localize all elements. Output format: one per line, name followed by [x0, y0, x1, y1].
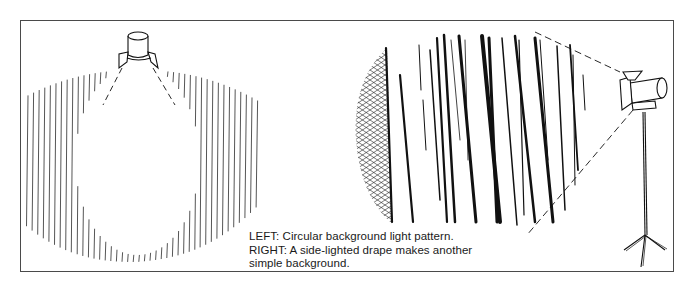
caption-line-left: LEFT: Circular background light pattern. [249, 230, 472, 244]
caption-line-right-cont: simple background. [249, 257, 472, 271]
figure-caption: LEFT: Circular background light pattern.… [249, 230, 472, 271]
circular-light-pattern [27, 71, 258, 262]
drape-folds [386, 35, 585, 225]
tripod-spotlight-icon [527, 32, 667, 267]
overhead-spotlight-icon [103, 32, 175, 105]
caption-line-right: RIGHT: A side-lighted drape makes anothe… [249, 244, 472, 258]
